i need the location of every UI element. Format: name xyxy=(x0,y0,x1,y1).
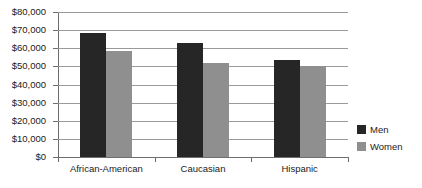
bar-women-2 xyxy=(300,66,326,157)
legend-item-women: Women xyxy=(357,138,403,155)
bar-women-1 xyxy=(203,63,229,157)
x-axis-category-label: Hispanic xyxy=(251,163,348,175)
legend-label-women: Women xyxy=(370,141,403,152)
x-axis-tick xyxy=(348,157,349,162)
y-axis-labels: $80,000 $70,000 $60,000 $50,000 $40,000 … xyxy=(0,0,58,188)
y-axis-tick-label: $30,000 xyxy=(12,98,46,108)
x-axis-tick xyxy=(58,157,59,162)
y-axis-tick-label: $40,000 xyxy=(12,80,46,90)
gridline xyxy=(58,12,348,13)
gridline xyxy=(58,157,348,158)
legend-swatch-women-icon xyxy=(357,142,366,151)
legend-swatch-men-icon xyxy=(357,125,366,134)
legend: Men Women xyxy=(357,121,403,155)
y-axis-tick-label: $0 xyxy=(35,152,46,162)
gridline xyxy=(58,30,348,31)
bar-chart: $80,000 $70,000 $60,000 $50,000 $40,000 … xyxy=(0,0,422,188)
x-axis-tick xyxy=(251,157,252,162)
bar-women-0 xyxy=(106,51,132,157)
bar-men-2 xyxy=(274,60,300,157)
y-axis-tick-label: $80,000 xyxy=(12,7,46,17)
y-axis-tick-label: $60,000 xyxy=(12,43,46,53)
y-axis-tick-label: $20,000 xyxy=(12,116,46,126)
bar-men-1 xyxy=(177,43,203,157)
x-axis-category-label: Caucasian xyxy=(155,163,252,175)
y-axis-tick-label: $10,000 xyxy=(12,134,46,144)
y-axis-tick-label: $50,000 xyxy=(12,61,46,71)
x-axis-tick xyxy=(155,157,156,162)
x-axis-category-label: African-American xyxy=(58,163,155,175)
bar-men-0 xyxy=(80,33,106,157)
y-axis-tick-label: $70,000 xyxy=(12,25,46,35)
legend-label-men: Men xyxy=(370,124,388,135)
legend-item-men: Men xyxy=(357,121,403,138)
plot-area xyxy=(58,12,348,157)
